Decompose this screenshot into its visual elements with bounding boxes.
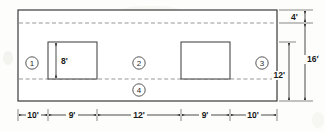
dim-10ft-left-label-top: 10' (27, 110, 38, 120)
dim-16ft-label-top: 16' (307, 54, 318, 64)
technical-drawing-container: 8' 1 2 3 4 4' 16' (0, 0, 325, 132)
zone-marker-4-label: 4 (137, 86, 142, 95)
floor-plan-diagram: 8' 1 2 3 4 4' 16' (0, 0, 325, 132)
zone-marker-2-label: 2 (137, 59, 142, 68)
dim-4ft-label-top: 4' (291, 12, 298, 22)
left-inner-rect (48, 42, 97, 79)
right-inner-rect (181, 42, 230, 79)
dim-12ft-right-label-top: 12' (274, 70, 285, 80)
dim-8ft-inner-label-top: 8' (61, 56, 68, 66)
vertical-dimension-labels: 16' 12' 4' (274, 12, 319, 80)
dim-9ft-left-label-top: 9' (69, 110, 76, 120)
zone-marker-3-label: 3 (260, 59, 265, 68)
dim-9ft-right-label-top: 9' (202, 110, 209, 120)
zone-marker-1-label: 1 (30, 59, 35, 68)
dim-10ft-right-label-top: 10' (247, 110, 258, 120)
dim-12ft-center-label-top: 12' (133, 110, 144, 120)
bottom-dimension-chain: 10' 9' 12' 9' 10' (18, 109, 277, 121)
